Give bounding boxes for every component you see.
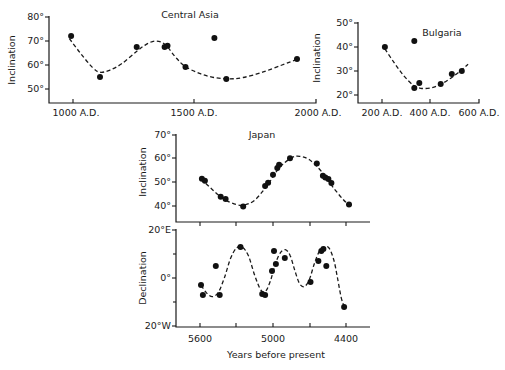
- data-point: [240, 204, 246, 210]
- data-point: [217, 292, 223, 298]
- data-point: [198, 282, 204, 288]
- data-point: [134, 44, 140, 50]
- bulgaria-ytick-20: 20°: [336, 89, 353, 100]
- bulgaria-y-label: Inclination: [311, 33, 322, 82]
- japan-title: Japan: [248, 129, 276, 140]
- japan-inc-ytick-40: 40°: [154, 200, 171, 211]
- data-point: [449, 71, 455, 77]
- data-point: [315, 258, 321, 264]
- data-point: [320, 246, 326, 252]
- data-point: [287, 155, 293, 161]
- central-asia-data-points: [68, 33, 300, 82]
- bulgaria-ytick-50: 50°: [336, 17, 353, 28]
- data-point: [265, 180, 271, 186]
- central-asia-panel: Central Asia Inclination 50° 60° 70° 80°…: [6, 9, 341, 118]
- japan-declination-data-points: [198, 244, 347, 310]
- data-point: [223, 196, 229, 202]
- data-point: [270, 172, 276, 178]
- central-asia-fit-curve: [69, 39, 296, 79]
- data-point: [262, 292, 268, 298]
- data-point: [328, 180, 334, 186]
- japan-inclination-ticks: [172, 135, 346, 226]
- data-point: [411, 38, 417, 44]
- paleomagnetic-figure: Central Asia Inclination 50° 60° 70° 80°…: [0, 0, 505, 370]
- data-point: [411, 85, 417, 91]
- bulgaria-data-points: [382, 38, 465, 91]
- data-point: [323, 263, 329, 269]
- japan-declination-panel: Declination 20°E 0° 20°W 5600 5000 4400 …: [137, 224, 370, 360]
- japan-dec-ytick-20E: 20°E: [148, 224, 171, 235]
- data-point: [202, 178, 208, 184]
- japan-dec-ytick-20W: 20°W: [145, 320, 172, 331]
- data-point: [271, 248, 277, 254]
- japan-xtick-5600: 5600: [188, 333, 212, 344]
- bulgaria-panel: Bulgaria Inclination 20° 30° 40° 50° 200…: [311, 17, 499, 118]
- data-point: [223, 76, 229, 82]
- bulgaria-title: Bulgaria: [422, 27, 461, 38]
- central-asia-y-label: Inclination: [6, 35, 17, 84]
- data-point: [341, 304, 347, 310]
- data-point: [314, 161, 320, 167]
- data-point: [183, 64, 189, 70]
- data-point: [273, 261, 279, 267]
- data-point: [276, 162, 282, 168]
- data-point: [165, 43, 171, 49]
- japan-inclination-y-label: Inclination: [137, 147, 148, 196]
- data-point: [282, 255, 288, 261]
- central-asia-ytick-70: 70°: [27, 35, 44, 46]
- japan-inclination-data-points: [199, 155, 352, 209]
- central-asia-xtick-1000: 1000 A.D.: [53, 107, 100, 118]
- japan-dec-ytick-0: 0°: [160, 272, 171, 283]
- japan-xtick-4400: 4400: [334, 333, 358, 344]
- japan-inclination-panel: Japan Inclination 40° 50° 60° 70°: [137, 129, 370, 226]
- data-point: [200, 292, 206, 298]
- data-point: [438, 81, 444, 87]
- data-point: [382, 44, 388, 50]
- data-point: [294, 56, 300, 62]
- data-point: [97, 74, 103, 80]
- data-point: [346, 202, 352, 208]
- central-asia-xtick-2000: 2000 A.D.: [295, 107, 342, 118]
- japan-inc-ytick-50: 50°: [154, 176, 171, 187]
- bulgaria-xtick-200: 200 A.D.: [362, 107, 403, 118]
- japan-declination-ticks: [172, 230, 346, 327]
- central-asia-ytick-80: 80°: [27, 11, 44, 22]
- data-point: [269, 268, 275, 274]
- bulgaria-ytick-40: 40°: [336, 41, 353, 52]
- japan-x-axis-label: Years before present: [226, 349, 325, 360]
- bulgaria-fit-curve: [385, 49, 468, 89]
- data-point: [238, 244, 244, 250]
- central-asia-xtick-1500: 1500 A.D.: [171, 107, 218, 118]
- japan-declination-fit-curve: [201, 246, 344, 306]
- japan-declination-y-label: Declination: [137, 251, 148, 305]
- data-point: [211, 35, 217, 41]
- bulgaria-ytick-30: 30°: [336, 65, 353, 76]
- central-asia-y-ticks: [45, 17, 194, 103]
- central-asia-title: Central Asia: [161, 9, 219, 20]
- central-asia-ytick-50: 50°: [27, 83, 44, 94]
- data-point: [213, 263, 219, 269]
- japan-xtick-5000: 5000: [261, 333, 285, 344]
- japan-inc-ytick-70: 70°: [154, 129, 171, 140]
- central-asia-ytick-60: 60°: [27, 59, 44, 70]
- data-point: [68, 33, 74, 39]
- japan-declination-axes: [176, 229, 370, 327]
- data-point: [459, 68, 465, 74]
- data-point: [416, 80, 422, 86]
- bulgaria-ticks: [354, 23, 430, 103]
- japan-inc-ytick-60: 60°: [154, 152, 171, 163]
- data-point: [308, 279, 314, 285]
- bulgaria-xtick-400: 400 A.D.: [410, 107, 451, 118]
- bulgaria-xtick-600: 600 A.D.: [459, 107, 500, 118]
- central-asia-axes: [49, 16, 316, 103]
